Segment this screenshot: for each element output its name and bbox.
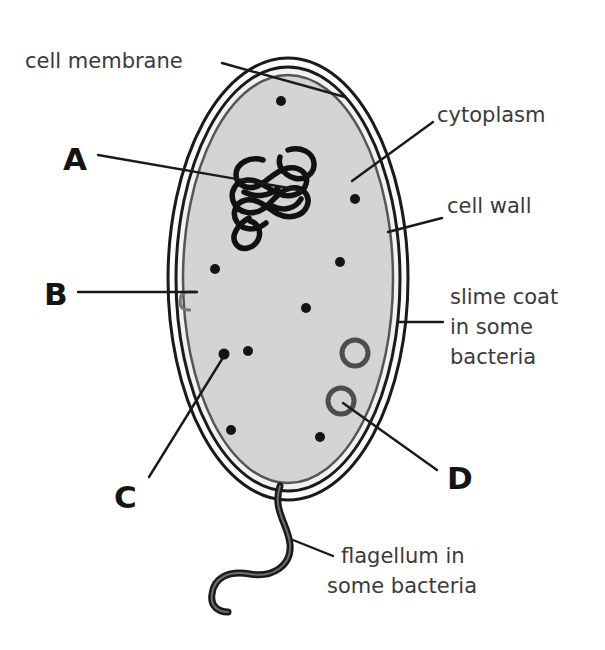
label-cell-membrane: cell membrane [25,49,183,73]
label-cytoplasm: cytoplasm [437,103,546,127]
cell-diagram-canvas: cell membrane cytoplasm cell wall slime … [0,0,605,650]
label-flagellum-line1: flagellum in [341,544,465,568]
letter-label-d: D [447,460,473,496]
ribosome [243,346,253,356]
letter-label-a: A [63,141,87,177]
letter-label-c: C [114,479,137,515]
label-slime-coat-line3: bacteria [450,345,536,369]
cell-envelope [168,58,408,500]
flagellum-shape [212,486,290,612]
ribosome [210,264,220,274]
ribosome [301,303,311,313]
cell-membrane-outline [183,75,393,483]
ribosome [350,194,360,204]
label-slime-coat-line2: in some [450,315,533,339]
ribosome [315,432,325,442]
label-flagellum-line2: some bacteria [327,574,477,598]
letter-label-b: B [44,276,68,312]
ribosome [335,257,345,267]
label-cell-wall: cell wall [447,194,532,218]
label-slime-coat-line1: slime coat [450,285,558,309]
bacterial-cell-diagram: cell membrane cytoplasm cell wall slime … [0,0,605,650]
ribosome [276,96,286,106]
leader-flagellum [293,540,333,556]
ribosome [226,425,236,435]
